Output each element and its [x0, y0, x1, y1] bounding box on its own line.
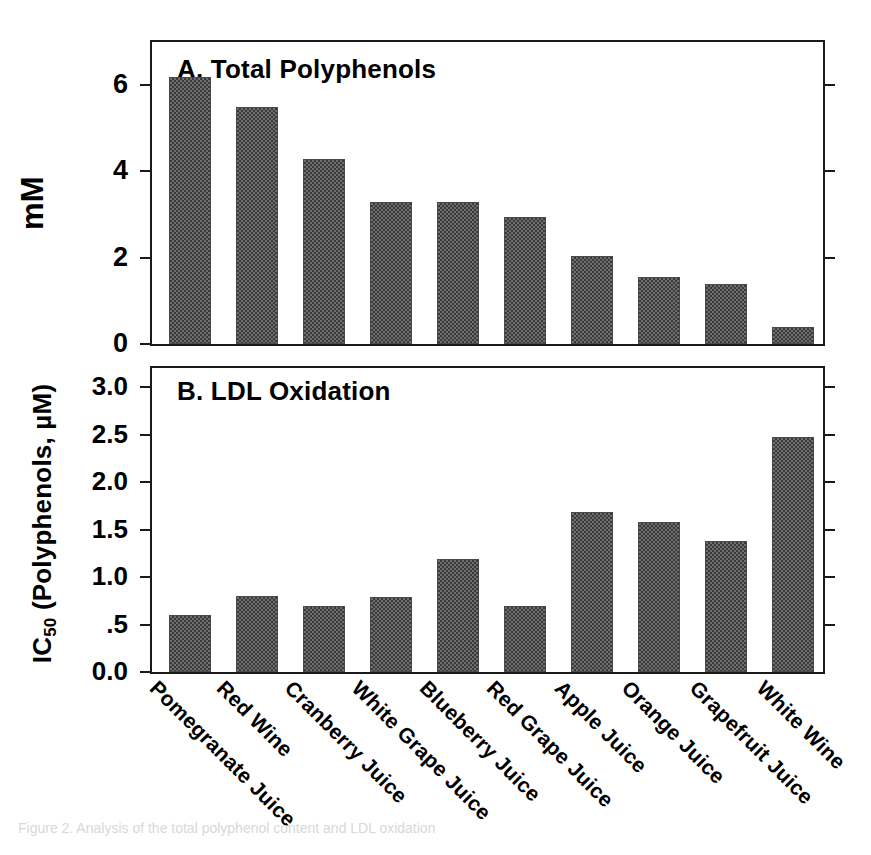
y-tick-left — [140, 170, 152, 172]
bar — [705, 541, 747, 672]
bar — [772, 437, 814, 672]
figure-caption-bleed: Figure 2. Analysis of the total polyphen… — [18, 820, 858, 836]
y-tick-label: 1.5 — [64, 516, 128, 542]
bar — [638, 522, 680, 672]
panel-b-y-axis-label: IC50 (Polyphenols, µM) — [27, 364, 58, 684]
bar — [571, 256, 613, 344]
bar — [437, 559, 479, 672]
bar — [571, 512, 613, 672]
y-tick-label: 3.0 — [64, 373, 128, 399]
y-tick-label: 6 — [82, 71, 128, 98]
bar — [370, 597, 412, 672]
bar — [504, 217, 546, 344]
panel-b: B. LDL Oxidation 0.0.51.01.52.02.53.0 — [150, 366, 825, 674]
bar — [169, 615, 211, 672]
y-tick-label: 2 — [82, 244, 128, 271]
panel-a: A. Total Polyphenols 0246 — [150, 40, 825, 346]
x-axis-category-label: Grapefruit Juice — [685, 676, 818, 809]
y-tick-label: 2.5 — [64, 421, 128, 447]
y-tick-left — [140, 257, 152, 259]
x-axis-category-label: Cranberry Juice — [280, 676, 412, 808]
y-tick-left — [140, 434, 152, 436]
bar — [370, 202, 412, 344]
y-tick-right — [823, 434, 835, 436]
y-tick-left — [140, 84, 152, 86]
y-tick-right — [823, 624, 835, 626]
y-tick-right — [823, 529, 835, 531]
x-axis-category-label: Red Grape Juice — [482, 676, 618, 812]
y-tick-right — [823, 170, 835, 172]
bar — [303, 159, 345, 345]
panel-b-y-axis-label-subscript: 50 — [41, 618, 60, 637]
y-tick-label: 1.0 — [64, 563, 128, 589]
bar — [504, 606, 546, 672]
y-tick-right — [823, 576, 835, 578]
x-axis-category-label: Blueberry Juice — [415, 676, 546, 807]
bar — [638, 277, 680, 344]
y-tick-left — [140, 529, 152, 531]
bar — [437, 202, 479, 344]
bar — [772, 327, 814, 344]
y-tick-left — [140, 576, 152, 578]
y-tick-right — [823, 386, 835, 388]
y-tick-label: 0.0 — [64, 658, 128, 684]
panel-b-y-axis-label-units: (Polyphenols, µM) — [27, 384, 57, 618]
bar — [236, 107, 278, 344]
panel-a-plot-area — [152, 42, 823, 344]
bar — [303, 606, 345, 673]
y-tick-left — [140, 343, 152, 345]
y-tick-label: 2.0 — [64, 468, 128, 494]
y-tick-right — [823, 84, 835, 86]
panel-b-y-axis-label-ic: IC — [27, 637, 57, 663]
y-tick-label: .5 — [64, 611, 128, 637]
figure-container: mM A. Total Polyphenols 0246 IC50 (Polyp… — [0, 0, 871, 855]
y-tick-left — [140, 671, 152, 673]
bar — [236, 596, 278, 672]
y-tick-label: 4 — [82, 157, 128, 184]
panel-a-y-axis-label: mM — [15, 148, 51, 258]
bar — [169, 77, 211, 344]
y-tick-left — [140, 386, 152, 388]
x-axis-category-labels: Pomegranate JuiceRed WineCranberry Juice… — [150, 676, 825, 826]
y-tick-left — [140, 481, 152, 483]
panel-b-plot-area — [152, 368, 823, 672]
y-tick-left — [140, 624, 152, 626]
y-tick-right — [823, 481, 835, 483]
y-tick-right — [823, 257, 835, 259]
bar — [705, 284, 747, 344]
y-tick-label: 0 — [82, 330, 128, 357]
